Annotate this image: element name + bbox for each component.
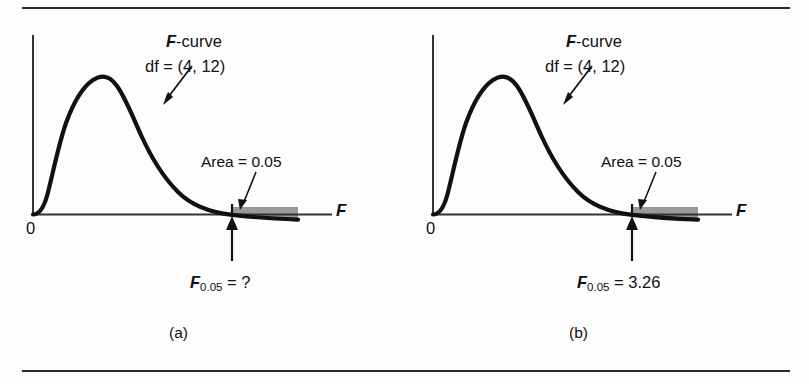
critical-equals-b: = — [609, 273, 628, 291]
critical-subscript-a: 0.05 — [200, 281, 222, 293]
origin-label-b: 0 — [426, 220, 435, 237]
df-label-a: df = (4, 12) — [145, 58, 225, 75]
figure-top-rule — [22, 7, 790, 9]
critical-value-a: ? — [241, 273, 250, 291]
curve-label-symbol-b: F — [566, 32, 576, 50]
x-axis-label-b: F — [736, 202, 746, 219]
critical-value-b: 3.26 — [628, 273, 660, 291]
area-label-b: Area = 0.05 — [601, 154, 682, 170]
curve-label-suffix-a: -curve — [176, 32, 222, 50]
critical-symbol-a: F — [190, 273, 200, 291]
critical-value-label-b: F0.05 = 3.26 — [577, 274, 660, 291]
x-axis-label-a: F — [336, 202, 346, 219]
area-label-a: Area = 0.05 — [201, 154, 282, 170]
df-label-b: df = (4, 12) — [545, 58, 625, 75]
f-density-curve-a — [33, 77, 298, 220]
critical-equals-a: = — [222, 273, 241, 291]
panel-caption-a: (a) — [169, 325, 188, 341]
critical-value-arrow-a — [226, 216, 238, 261]
figure-root: F-curve df = (4, 12) Area = 0.05 0 F F0.… — [0, 0, 809, 384]
curve-label-a: F-curve — [166, 33, 222, 50]
curve-label-symbol-a: F — [166, 32, 176, 50]
origin-label-a: 0 — [26, 220, 35, 237]
area-callout-arrow-b — [638, 172, 656, 210]
figure-bottom-rule — [22, 370, 790, 372]
panel-caption-b: (b) — [569, 325, 588, 341]
critical-subscript-b: 0.05 — [587, 281, 609, 293]
panel-a: F-curve df = (4, 12) Area = 0.05 0 F F0.… — [14, 18, 394, 363]
f-density-curve-b — [433, 77, 698, 220]
critical-value-label-a: F0.05 = ? — [190, 274, 250, 291]
critical-symbol-b: F — [577, 273, 587, 291]
area-callout-arrow-a — [238, 172, 256, 210]
critical-value-arrow-b — [626, 216, 638, 261]
curve-label-b: F-curve — [566, 33, 622, 50]
panel-b: F-curve df = (4, 12) Area = 0.05 0 F F0.… — [414, 18, 794, 363]
curve-label-suffix-b: -curve — [576, 32, 622, 50]
